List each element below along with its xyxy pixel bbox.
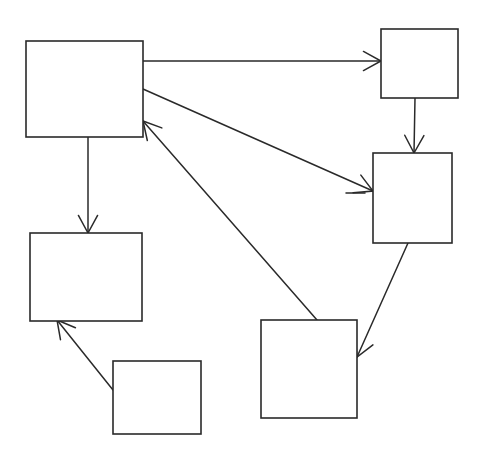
node-f — [261, 320, 357, 418]
edge-line — [143, 121, 317, 320]
edge-line — [57, 320, 113, 390]
node-box — [373, 153, 452, 243]
node-box — [261, 320, 357, 418]
node-d — [30, 233, 142, 321]
node-box — [30, 233, 142, 321]
node-box — [381, 29, 458, 98]
edge-a-to-d — [78, 137, 97, 233]
diagram-canvas — [0, 0, 479, 454]
edge-e-to-d — [57, 320, 113, 390]
node-box — [26, 41, 143, 137]
edge-f-to-a — [143, 121, 317, 320]
node-a — [26, 41, 143, 137]
nodes-layer — [26, 29, 458, 434]
edge-line — [143, 89, 373, 191]
edge-line — [357, 243, 408, 357]
node-e — [113, 361, 201, 434]
edge-a-to-c — [143, 89, 373, 193]
node-b — [381, 29, 458, 98]
edge-line — [414, 98, 415, 153]
edge-a-to-b — [143, 51, 381, 70]
edge-b-to-c — [405, 98, 424, 153]
edge-c-to-f — [355, 243, 408, 357]
node-c — [373, 153, 452, 243]
node-box — [113, 361, 201, 434]
